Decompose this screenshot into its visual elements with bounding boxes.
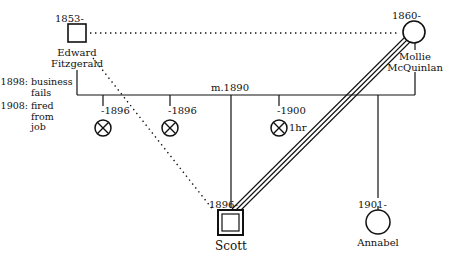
scott-symbol-inner bbox=[222, 214, 239, 231]
genogram-lines bbox=[0, 0, 449, 261]
edward-symbol bbox=[68, 24, 86, 42]
event-text: fails bbox=[31, 87, 51, 98]
event-year: 1908: bbox=[0, 101, 28, 112]
annabel-name: Annabel bbox=[357, 237, 399, 248]
genogram: 1853- Edward Fitzgerald 1898:businessfai… bbox=[0, 0, 449, 261]
edward-name-line1: Edward bbox=[57, 47, 96, 58]
event-year: 1898: bbox=[0, 77, 28, 88]
mollie-name-line1: Mollie bbox=[399, 51, 431, 62]
edward-name-line2: Fitzgerald bbox=[51, 58, 103, 69]
annabel-symbol bbox=[366, 210, 390, 234]
scott-name: Scott bbox=[215, 240, 247, 253]
loss-3-note: 1hr bbox=[289, 122, 307, 133]
annabel-birth: 1901- bbox=[358, 199, 387, 210]
event-text: job bbox=[31, 121, 46, 132]
loss-3-label: -1900 bbox=[277, 105, 306, 116]
edward-event-2: 1908:firedfromjob bbox=[0, 101, 54, 133]
mollie-scott-fused-line bbox=[232, 38, 410, 211]
edward-birth: 1853- bbox=[55, 13, 84, 24]
event-text: from bbox=[31, 111, 54, 122]
mollie-name-line2: McQuinlan bbox=[387, 62, 443, 73]
event-text: business bbox=[31, 76, 73, 87]
loss-1-symbol bbox=[95, 120, 111, 136]
loss-2-label: -1896 bbox=[168, 105, 197, 116]
scott-birth: 1896- bbox=[209, 199, 238, 210]
loss-3-symbol bbox=[271, 120, 287, 136]
edward-event-1: 1898:businessfails bbox=[0, 77, 73, 98]
mollie-symbol bbox=[403, 21, 425, 43]
event-text: fired bbox=[31, 100, 54, 111]
mollie-birth: 1860- bbox=[392, 10, 421, 21]
marriage-label: m.1890 bbox=[211, 82, 249, 93]
loss-1-label: -1896 bbox=[101, 105, 130, 116]
loss-2-symbol bbox=[162, 120, 178, 136]
edward-scott-distant-line bbox=[93, 58, 214, 211]
